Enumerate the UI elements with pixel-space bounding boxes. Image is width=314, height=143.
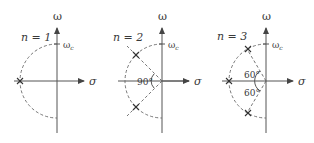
angle-label: 90° [137,77,153,87]
pole-marker [245,46,251,52]
sigma-label: σ [298,75,306,88]
omega-label: ω [262,10,271,23]
pole-marker [133,52,139,58]
omega-label: ω [158,10,167,23]
wc-label: ωc [63,40,74,51]
pole-marker [133,104,139,110]
wc-label: ωc [168,40,179,51]
wc-label: ωc [272,40,283,51]
angle-label: 60° [244,70,260,80]
panel-n2: ω σ ωc n = 2 90° [113,10,202,133]
order-label: n = 1 [21,31,51,44]
pole-ray [127,46,162,81]
angle-label: 60° [244,88,260,98]
pole-diagram: ω σ ωc n = 1 ω σ ωc n = 2 90° [0,0,314,143]
sigma-label: σ [89,75,97,88]
order-label: n = 2 [113,31,143,44]
pole-marker [245,110,251,116]
panel-n3: ω σ ωc n = 3 60° 60° [217,10,306,133]
sigma-label: σ [194,75,202,88]
panel-n1: ω σ ωc n = 1 [14,10,97,133]
omega-label: ω [53,10,62,23]
order-label: n = 3 [217,30,247,43]
